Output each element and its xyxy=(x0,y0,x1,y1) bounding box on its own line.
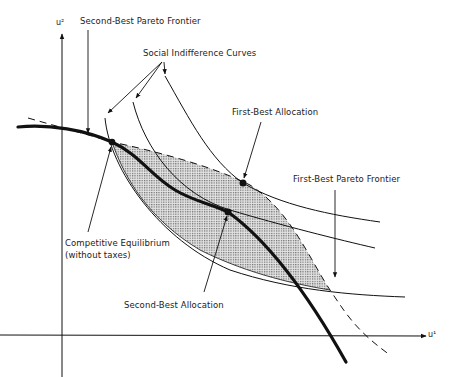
x-axis xyxy=(0,335,426,336)
arrow-competitive-equilibrium xyxy=(88,147,111,232)
first-best-allocation-point xyxy=(240,180,247,187)
second-best-allocation-point xyxy=(225,209,232,216)
label-first-best-frontier: First-Best Pareto Frontier xyxy=(293,174,400,185)
competitive-equilibrium-point xyxy=(109,139,116,146)
arrow-sic-3 xyxy=(164,62,165,74)
x-axis-label: u¹ xyxy=(428,330,436,339)
arrow-sic-2 xyxy=(136,62,162,98)
label-second-best-allocation: Second-Best Allocation xyxy=(124,300,224,311)
arrow-sic-1 xyxy=(108,62,162,113)
y-axis-label: u² xyxy=(56,18,64,27)
label-competitive-equilibrium: Competitive Equilibrium xyxy=(65,238,170,249)
label-without-taxes: (without taxes) xyxy=(65,250,131,261)
label-first-best-allocation: First-Best Allocation xyxy=(232,107,318,118)
label-second-best-frontier: Second-Best Pareto Frontier xyxy=(80,16,201,27)
arrow-first-best-allocation xyxy=(244,122,261,178)
label-social-indifference-curves: Social Indifference Curves xyxy=(143,48,256,59)
